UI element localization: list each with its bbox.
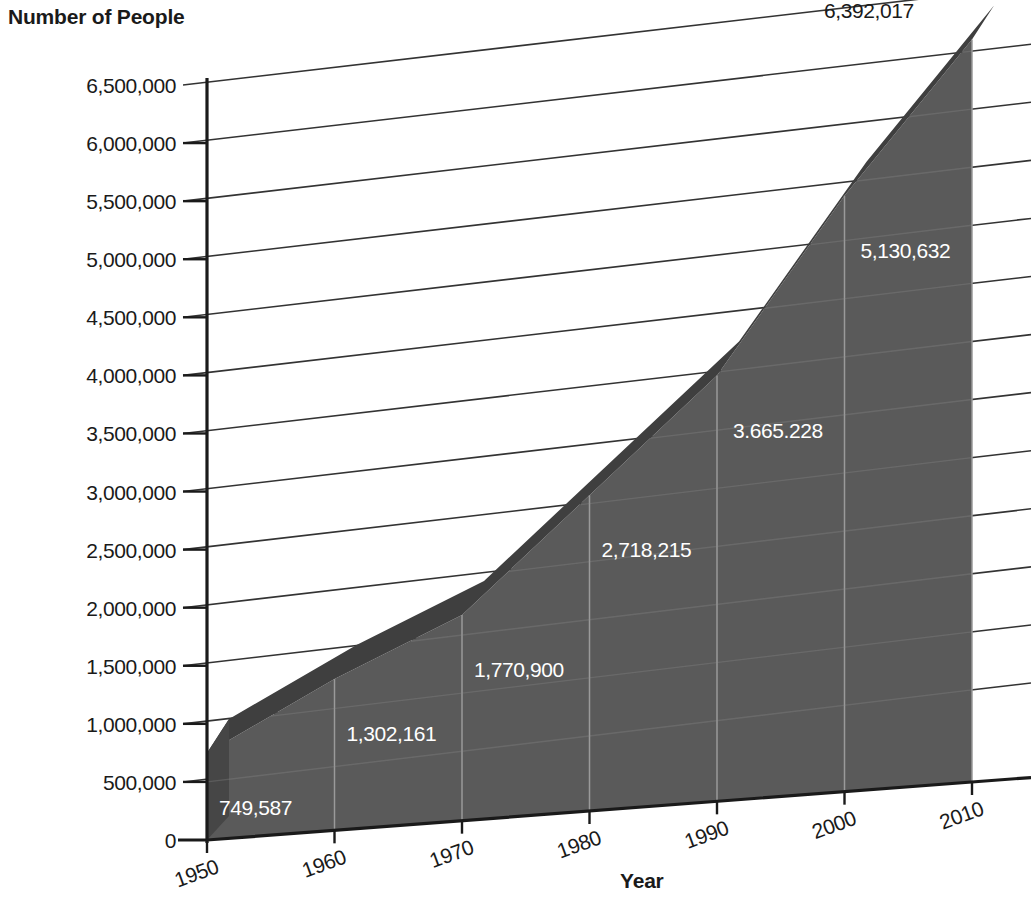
y-tick-label: 5,000,000 bbox=[86, 248, 176, 271]
y-tick-label: 6,000,000 bbox=[86, 132, 176, 155]
y-tick-label: 500,000 bbox=[103, 771, 176, 794]
x-axis-title: Year bbox=[620, 869, 664, 892]
data-label-1960: 1,302,161 bbox=[347, 722, 437, 745]
data-label-1990: 3.665.228 bbox=[733, 419, 823, 442]
data-label-2010: 6,392,017 bbox=[824, 0, 914, 22]
y-tick-label: 1,500,000 bbox=[86, 655, 176, 678]
x-tick-label-1990: 1990 bbox=[681, 816, 731, 853]
data-label-2000: 5,130,632 bbox=[861, 239, 951, 262]
x-tick-label-2010: 2010 bbox=[936, 796, 986, 833]
x-tick-label-1950: 1950 bbox=[171, 854, 221, 891]
y-tick-label: 5,500,000 bbox=[86, 190, 176, 213]
y-tick-label: 3,000,000 bbox=[86, 481, 176, 504]
x-tick-label-1960: 1960 bbox=[299, 845, 349, 882]
y-tick-labels-group: 0500,0001,000,0001,500,0002,000,0002,500… bbox=[86, 74, 207, 852]
y-tick-label: 4,000,000 bbox=[86, 364, 176, 387]
y-tick-label: 6,500,000 bbox=[86, 74, 176, 97]
data-label-1980: 2,718,215 bbox=[602, 538, 692, 561]
y-tick-label: 1,000,000 bbox=[86, 713, 176, 736]
data-label-1970: 1,770,900 bbox=[474, 658, 564, 681]
y-tick-label: 0 bbox=[165, 829, 176, 852]
data-label-1950: 749,587 bbox=[219, 796, 292, 819]
area-series-group bbox=[207, 6, 994, 840]
y-tick-label: 4,500,000 bbox=[86, 306, 176, 329]
y-tick-label: 3,500,000 bbox=[86, 422, 176, 445]
y-tick-label: 2,000,000 bbox=[86, 597, 176, 620]
x-tick-label-2000: 2000 bbox=[809, 806, 859, 843]
x-tick-label-1980: 1980 bbox=[554, 825, 604, 862]
area-chart-3d: 0500,0001,000,0001,500,0002,000,0002,500… bbox=[0, 0, 1031, 907]
y-axis-title: Number of People bbox=[8, 5, 185, 28]
chart-container: 0500,0001,000,0001,500,0002,000,0002,500… bbox=[0, 0, 1031, 907]
y-tick-label: 2,500,000 bbox=[86, 539, 176, 562]
x-tick-label-1970: 1970 bbox=[426, 835, 476, 872]
